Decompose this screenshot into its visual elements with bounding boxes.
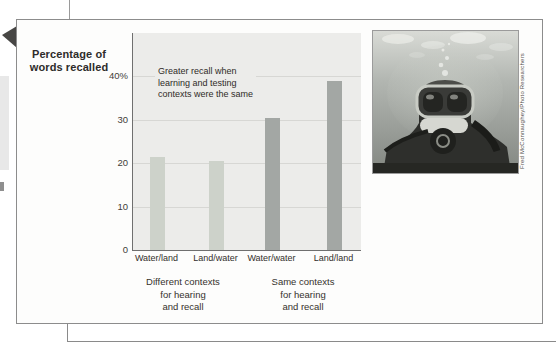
- underlay-box-bottom-edge: [67, 341, 556, 342]
- bar-land-land: [327, 81, 342, 250]
- annotation-line2: learning and testing: [158, 78, 253, 90]
- figure-panel: Percentage of words recalled Greater rec…: [16, 19, 543, 324]
- group1-line1: Different contexts: [123, 276, 243, 289]
- dive-mask-icon: [417, 86, 473, 117]
- chart-annotation: Greater recall when learning and testing…: [155, 65, 256, 102]
- group2-line1: Same contexts: [243, 276, 363, 289]
- group2-line3: and recall: [243, 301, 363, 314]
- figure-leader-line: [69, 0, 70, 19]
- annotation-line3: contexts were the same: [158, 89, 253, 101]
- scuba-diver-photo: [372, 30, 519, 174]
- y-tick-label-10: 10: [86, 201, 128, 212]
- plot-area: Greater recall when learning and testing…: [132, 33, 361, 251]
- y-tick-label-30: 30: [86, 114, 128, 125]
- textbook-figure-page: Percentage of words recalled Greater rec…: [0, 0, 556, 349]
- group-label-different-contexts: Different contexts for hearing and recal…: [123, 276, 243, 314]
- group-label-same-contexts: Same contexts for hearing and recall: [243, 276, 363, 314]
- page-edge-mark: [0, 182, 4, 191]
- y-tick-label-20: 20: [86, 157, 128, 168]
- group1-line3: and recall: [123, 301, 243, 314]
- y-axis-title-line1: Percentage of: [23, 48, 115, 61]
- group1-line2: for hearing: [123, 289, 243, 302]
- figure-arrow-marker-icon: [2, 26, 17, 48]
- annotation-line1: Greater recall when: [158, 66, 253, 78]
- photo-credit: Fred McConnaughey/Photo Researchers: [519, 36, 529, 186]
- bottom-shadow: [373, 163, 518, 173]
- bar-water-water: [265, 118, 280, 250]
- x-tick-label-3: Land/land: [299, 253, 369, 263]
- page-edge-strip: [0, 76, 9, 170]
- bar-water-land: [150, 157, 165, 250]
- underlay-box-left-edge: [67, 324, 68, 342]
- x-tick-label-2: Water/water: [237, 253, 307, 263]
- bar-land-water: [209, 161, 224, 250]
- y-tick-label-40: 40%: [86, 70, 128, 81]
- group2-line2: for hearing: [243, 289, 363, 302]
